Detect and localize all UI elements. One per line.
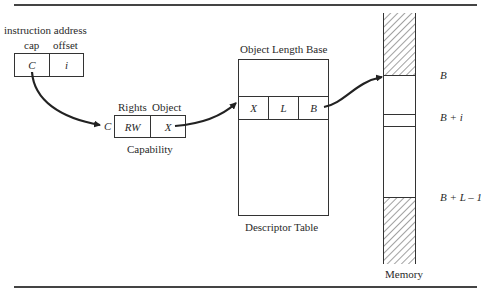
arrow-descriptor-to-memory	[324, 77, 382, 107]
arrow-cap-to-capability	[32, 72, 100, 125]
arrow-capability-to-descriptor	[175, 103, 236, 126]
arrows-svg	[0, 0, 493, 297]
